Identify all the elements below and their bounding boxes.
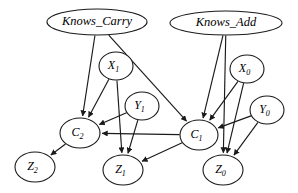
node-c1[interactable]: C1 bbox=[180, 120, 218, 150]
node-z1[interactable]: Z1 bbox=[103, 155, 143, 185]
bayesian-network-graph: Knows_CarryKnows_AddX1X0Y1Y0C2C1Z2Z1Z0 bbox=[0, 0, 298, 193]
edge-y0-to-z0 bbox=[234, 122, 258, 155]
diagram-canvas: Knows_CarryKnows_AddX1X0Y1Y0C2C1Z2Z1Z0 bbox=[0, 0, 298, 193]
node-x0[interactable]: X0 bbox=[230, 55, 264, 83]
node-knows_add[interactable]: Knows_Add bbox=[170, 11, 282, 35]
edge-y1-to-c2 bbox=[99, 113, 126, 125]
edge-knows_add-to-z0 bbox=[223, 36, 225, 153]
edge-knows_carry-to-c2 bbox=[83, 35, 95, 115]
node-y0[interactable]: Y0 bbox=[250, 96, 284, 124]
node-label-knows_add: Knows_Add bbox=[195, 15, 257, 29]
node-knows_carry[interactable]: Knows_Carry bbox=[47, 9, 147, 35]
node-y1[interactable]: Y1 bbox=[125, 92, 159, 120]
edge-c1-to-c2 bbox=[102, 133, 179, 134]
node-z2[interactable]: Z2 bbox=[15, 152, 55, 182]
edge-y1-to-z1 bbox=[128, 120, 138, 153]
node-z0[interactable]: Z0 bbox=[203, 155, 243, 185]
edge-c2-to-z2 bbox=[51, 144, 66, 155]
node-label-knows_carry: Knows_Carry bbox=[61, 14, 133, 28]
edge-c1-to-z1 bbox=[142, 143, 182, 161]
node-c2[interactable]: C2 bbox=[60, 118, 100, 148]
edge-x1-to-c2 bbox=[89, 79, 109, 117]
node-x1[interactable]: X1 bbox=[99, 52, 133, 80]
edge-y0-to-c1 bbox=[218, 116, 251, 128]
node-layer: Knows_CarryKnows_AddX1X0Y1Y0C2C1Z2Z1Z0 bbox=[15, 9, 284, 185]
